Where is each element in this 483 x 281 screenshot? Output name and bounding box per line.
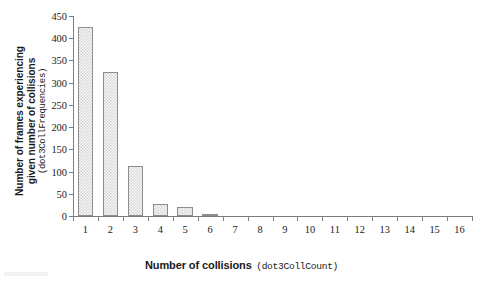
bar <box>202 214 217 216</box>
y-axis-tick-label: 150 <box>37 144 67 155</box>
y-axis-tick-label: 450 <box>37 11 67 22</box>
y-axis-tick-label: 200 <box>37 122 67 133</box>
x-axis-tick-mark <box>123 216 124 221</box>
y-axis-tick-mark <box>69 83 74 84</box>
x-axis-tick-label: 1 <box>73 224 97 235</box>
x-axis-tick-mark <box>397 216 398 221</box>
y-axis-tick-label: 50 <box>37 188 67 199</box>
x-axis-tick-label: 4 <box>148 224 172 235</box>
y-axis-tick-label: 100 <box>37 166 67 177</box>
x-axis-tick-label: 16 <box>448 224 472 235</box>
scan-artifact <box>4 272 48 276</box>
x-axis-tick-mark <box>223 216 224 221</box>
y-axis-title-line1: Number of frames experiencing <box>14 46 25 196</box>
y-axis-tick-mark <box>69 194 74 195</box>
x-axis-tick-label: 13 <box>373 224 397 235</box>
y-axis-tick-mark <box>69 16 74 17</box>
x-axis-tick-label: 12 <box>348 224 372 235</box>
y-axis-tick-label: 0 <box>37 211 67 222</box>
x-axis-tick-label: 9 <box>273 224 297 235</box>
x-axis-tick-mark <box>148 216 149 221</box>
x-axis-tick-mark <box>273 216 274 221</box>
x-axis-title-variable: (dot3CollCount) <box>256 261 338 272</box>
x-axis-tick-label: 3 <box>123 224 147 235</box>
y-axis-tick-mark <box>69 149 74 150</box>
x-axis-tick-mark <box>447 216 448 221</box>
bar <box>177 207 192 216</box>
x-axis-tick-label: 8 <box>248 224 272 235</box>
bar <box>128 166 143 216</box>
x-axis-tick-mark <box>422 216 423 221</box>
x-axis-tick-mark <box>322 216 323 221</box>
bar <box>103 72 118 216</box>
x-axis-tick-mark <box>173 216 174 221</box>
x-axis-tick-label: 11 <box>323 224 347 235</box>
y-axis-tick-mark <box>69 172 74 173</box>
x-axis-tick-label: 10 <box>298 224 322 235</box>
bar <box>78 27 93 216</box>
y-axis-tick-mark <box>69 60 74 61</box>
y-axis-tick-label: 350 <box>37 55 67 66</box>
y-axis-tick-labels: 050100150200250300350400450 <box>31 0 67 281</box>
x-axis-tick-label: 14 <box>398 224 422 235</box>
x-axis-tick-label: 2 <box>98 224 122 235</box>
x-axis-tick-mark <box>248 216 249 221</box>
y-axis-line <box>73 16 74 216</box>
x-axis-tick-mark <box>472 216 473 221</box>
y-axis-tick-label: 400 <box>37 33 67 44</box>
x-axis-tick-mark <box>73 216 74 221</box>
y-axis-tick-mark <box>69 127 74 128</box>
bar <box>153 204 168 216</box>
x-axis-tick-label: 7 <box>223 224 247 235</box>
x-axis-title: Number of collisions (dot3CollCount) <box>0 255 483 273</box>
y-axis-tick-mark <box>69 105 74 106</box>
x-axis-tick-label: 15 <box>423 224 447 235</box>
x-axis-tick-label: 6 <box>198 224 222 235</box>
y-axis-tick-mark <box>69 38 74 39</box>
x-axis-tick-mark <box>98 216 99 221</box>
x-axis-tick-mark <box>372 216 373 221</box>
x-axis-tick-label: 5 <box>173 224 197 235</box>
x-axis-tick-mark <box>347 216 348 221</box>
plot-area: 12345678910111213141516 <box>73 16 472 216</box>
bar-chart-figure: Number of frames experiencing given numb… <box>0 0 483 281</box>
x-axis-tick-mark <box>297 216 298 221</box>
x-axis-tick-mark <box>198 216 199 221</box>
y-axis-tick-label: 250 <box>37 99 67 110</box>
y-axis-tick-label: 300 <box>37 77 67 88</box>
x-axis-title-bold: Number of collisions <box>145 259 252 271</box>
